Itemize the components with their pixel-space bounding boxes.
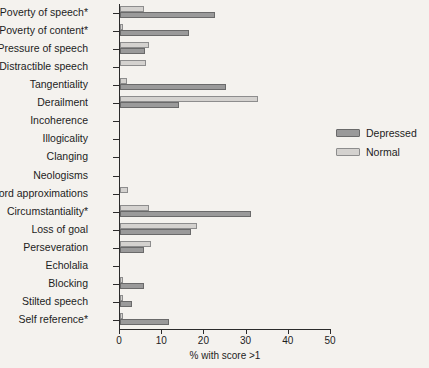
y-axis-label-7: Illogicality	[0, 133, 88, 144]
chart-category-row: Blocking	[0, 275, 429, 294]
legend-swatch-normal	[336, 148, 360, 156]
chart-category-row: Distractible speech	[0, 58, 429, 77]
bar-normal-10	[120, 187, 128, 193]
chart-category-row: Loss of goal	[0, 221, 429, 240]
y-axis-label-10: Word approximations	[0, 188, 88, 199]
chart-category-row: Pressure of speech	[0, 40, 429, 59]
y-axis-label-1: Poverty of content*	[0, 25, 88, 36]
chart-category-row: Derailment	[0, 94, 429, 113]
y-axis-label-15: Blocking	[0, 278, 88, 289]
bar-depressed-17	[120, 319, 169, 325]
x-tick-label-40: 40	[273, 335, 303, 346]
x-tick-label-30: 30	[231, 335, 261, 346]
x-tick-label-20: 20	[188, 335, 218, 346]
y-axis-label-16: Stilted speech	[0, 296, 88, 307]
bar-depressed-15	[120, 283, 144, 289]
chart-category-row: Self reference*	[0, 311, 429, 330]
x-tick-50	[330, 329, 331, 334]
chart-category-row: Poverty of speech*	[0, 4, 429, 23]
bar-depressed-13	[120, 247, 144, 253]
y-tick-13	[113, 248, 119, 249]
y-axis-label-0: Poverty of speech*	[0, 7, 88, 18]
chart-category-row: Word approximations	[0, 185, 429, 204]
bar-depressed-4	[120, 84, 226, 90]
x-tick-20	[203, 329, 204, 334]
y-axis-label-12: Loss of goal	[0, 224, 88, 235]
y-tick-14	[113, 266, 119, 267]
legend-item-normal: Normal	[336, 146, 417, 158]
chart-category-row: Perseveration	[0, 239, 429, 258]
y-tick-2	[113, 49, 119, 50]
bar-depressed-11	[120, 211, 251, 217]
legend-label-depressed: Depressed	[366, 127, 417, 139]
x-tick-label-50: 50	[315, 335, 345, 346]
y-axis-label-5: Derailment	[0, 97, 88, 108]
chart-category-row: Neologisms	[0, 167, 429, 186]
y-axis-label-13: Perseveration	[0, 242, 88, 253]
y-axis-label-8: Clanging	[0, 151, 88, 162]
chart-category-row: Tangentiality	[0, 76, 429, 95]
x-tick-40	[288, 329, 289, 334]
bar-depressed-2	[120, 48, 145, 54]
y-tick-1	[113, 31, 119, 32]
bar-depressed-5	[120, 102, 179, 108]
bar-depressed-1	[120, 30, 189, 36]
y-axis-label-4: Tangentiality	[0, 79, 88, 90]
y-axis-label-14: Echolalia	[0, 260, 88, 271]
y-axis-label-2: Pressure of speech	[0, 43, 88, 54]
y-tick-0	[113, 13, 119, 14]
y-tick-6	[113, 121, 119, 122]
y-tick-3	[113, 67, 119, 68]
y-tick-8	[113, 157, 119, 158]
x-tick-label-0: 0	[104, 335, 134, 346]
bar-normal-3	[120, 60, 146, 66]
x-tick-30	[246, 329, 247, 334]
x-tick-10	[161, 329, 162, 334]
bar-depressed-12	[120, 229, 191, 235]
y-tick-17	[113, 320, 119, 321]
y-axis-label-6: Incoherence	[0, 115, 88, 126]
y-axis-label-3: Distractible speech	[0, 61, 88, 72]
y-tick-16	[113, 302, 119, 303]
y-axis-label-11: Circumstantiality*	[0, 206, 88, 217]
y-tick-11	[113, 212, 119, 213]
chart-figure: Poverty of speech*Poverty of content*Pre…	[0, 0, 429, 368]
y-axis-label-17: Self reference*	[0, 314, 88, 325]
bar-depressed-16	[120, 301, 132, 307]
y-tick-7	[113, 139, 119, 140]
chart-category-row: Poverty of content*	[0, 22, 429, 41]
chart-category-row: Echolalia	[0, 257, 429, 276]
y-tick-10	[113, 194, 119, 195]
x-tick-0	[119, 329, 120, 334]
chart-legend: Depressed Normal	[336, 127, 417, 165]
y-tick-5	[113, 103, 119, 104]
x-tick-label-10: 10	[146, 335, 176, 346]
legend-label-normal: Normal	[366, 146, 400, 158]
y-tick-4	[113, 85, 119, 86]
y-tick-9	[113, 176, 119, 177]
y-tick-15	[113, 284, 119, 285]
legend-swatch-depressed	[336, 129, 360, 137]
bar-depressed-0	[120, 12, 215, 18]
chart-category-row: Stilted speech	[0, 293, 429, 312]
y-axis-label-9: Neologisms	[0, 170, 88, 181]
chart-category-row: Circumstantiality*	[0, 203, 429, 222]
x-axis-title: % with score >1	[119, 350, 331, 361]
y-tick-12	[113, 230, 119, 231]
legend-item-depressed: Depressed	[336, 127, 417, 139]
